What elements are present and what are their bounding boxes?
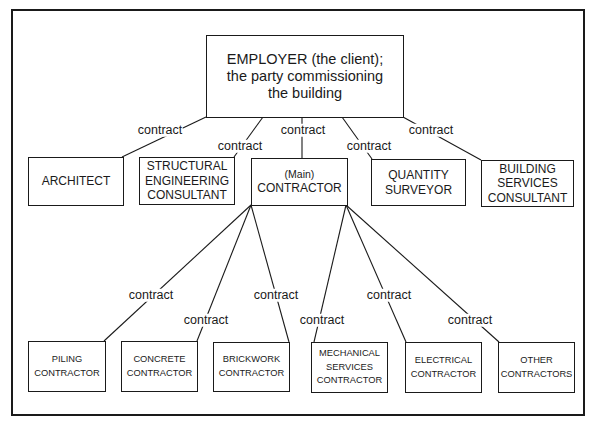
- contract-label-architect: contract: [137, 124, 183, 137]
- quantity-surveyor-line-2: SURVEYOR: [385, 183, 452, 198]
- edge-main-brickwork: [251, 205, 289, 342]
- contract-label-concrete: contract: [183, 314, 229, 327]
- piling-contractor-box: PILING CONTRACTOR: [28, 341, 106, 392]
- piling-line-1: PILING: [52, 353, 82, 367]
- employer-line-1: EMPLOYER (the client);: [227, 51, 383, 68]
- brickwork-line-2: CONTRACTOR: [219, 367, 284, 381]
- mechanical-services-contractor-box: MECHANICAL SERVICES CONTRACTOR: [311, 342, 388, 393]
- employer-line-3: the building: [268, 85, 342, 102]
- concrete-contractor-box: CONCRETE CONTRACTOR: [121, 341, 198, 392]
- architect-label: ARCHITECT: [42, 174, 111, 189]
- building-services-line-1: BUILDING: [499, 162, 556, 177]
- building-services-consultant-box: BUILDING SERVICES CONSULTANT: [481, 160, 574, 207]
- other-line-2: CONTRACTORS: [501, 368, 573, 382]
- contract-label-building-services: contract: [408, 124, 454, 137]
- electrical-contractor-box: ELECTRICAL CONTRACTOR: [405, 342, 482, 393]
- mechanical-line-3: CONTRACTOR: [317, 374, 382, 387]
- employer-box: EMPLOYER (the client); the party commiss…: [206, 35, 404, 118]
- structural-line-1: STRUCTURAL: [147, 159, 228, 174]
- other-contractors-box: OTHER CONTRACTORS: [498, 342, 575, 393]
- main-contractor-line-2: CONTRACTOR: [257, 181, 341, 196]
- brickwork-line-1: BRICKWORK: [223, 353, 280, 367]
- electrical-line-1: ELECTRICAL: [415, 354, 472, 368]
- contract-label-mechanical: contract: [299, 314, 345, 327]
- main-contractor-box: (Main) CONTRACTOR: [251, 158, 348, 206]
- edge-main-electrical: [346, 205, 406, 342]
- quantity-surveyor-box: QUANTITY SURVEYOR: [371, 159, 466, 206]
- employer-line-2: the party commissioning: [227, 68, 383, 85]
- architect-box: ARCHITECT: [28, 157, 124, 206]
- quantity-surveyor-line-1: QUANTITY: [388, 168, 449, 183]
- building-services-line-3: CONSULTANT: [488, 191, 568, 206]
- contract-label-brickwork: contract: [253, 289, 299, 302]
- contract-label-quantity-surveyor: contract: [346, 140, 392, 153]
- contract-label-other: contract: [447, 314, 493, 327]
- structural-engineering-consultant-box: STRUCTURAL ENGINEERING CONSULTANT: [139, 157, 235, 205]
- structural-line-2: ENGINEERING: [145, 174, 229, 189]
- concrete-line-1: CONCRETE: [133, 353, 185, 367]
- piling-line-2: CONTRACTOR: [34, 367, 99, 381]
- brickwork-contractor-box: BRICKWORK CONTRACTOR: [213, 342, 290, 392]
- structural-line-3: CONSULTANT: [147, 188, 227, 203]
- contract-label-main-contractor: contract: [280, 124, 326, 137]
- mechanical-line-1: MECHANICAL: [319, 347, 380, 360]
- main-contractor-line-1: (Main): [285, 168, 315, 181]
- other-line-1: OTHER: [520, 354, 553, 368]
- building-services-line-2: SERVICES: [497, 176, 557, 191]
- concrete-line-2: CONTRACTOR: [127, 367, 192, 381]
- electrical-line-2: CONTRACTOR: [411, 368, 476, 382]
- mechanical-line-2: SERVICES: [326, 361, 373, 374]
- contract-label-structural: contract: [217, 140, 263, 153]
- contract-label-electrical: contract: [366, 289, 412, 302]
- contract-label-piling: contract: [128, 289, 174, 302]
